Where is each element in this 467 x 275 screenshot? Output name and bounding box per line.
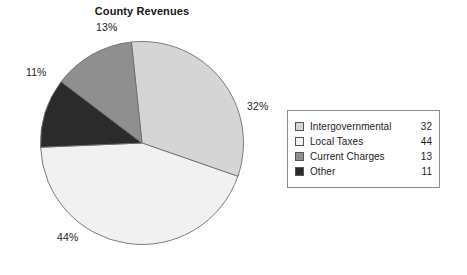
pie-graphic: [40, 41, 244, 245]
legend-value: 13: [412, 151, 432, 162]
legend-label: Intergovernmental: [310, 121, 412, 132]
legend-swatch-icon: [295, 167, 304, 176]
chart-legend: Intergovernmental32Local Taxes44Current …: [287, 110, 440, 188]
pie-percent-label-current-charges: 13%: [96, 21, 117, 33]
legend-row: Intergovernmental32: [295, 119, 432, 134]
legend-value: 11: [412, 166, 432, 177]
legend-swatch-icon: [295, 152, 304, 161]
legend-value: 32: [412, 121, 432, 132]
pie-percent-label-intergovernmental: 32%: [247, 100, 268, 112]
legend-list: Intergovernmental32Local Taxes44Current …: [295, 119, 432, 179]
legend-value: 44: [412, 136, 432, 147]
pie-percent-label-other: 11%: [26, 66, 47, 78]
pie-svg: [40, 41, 244, 245]
legend-label: Other: [310, 166, 412, 177]
chart-title: County Revenues: [0, 5, 284, 17]
pie-chart-figure: County Revenues 13% 11% 32% 44% Intergov…: [0, 0, 467, 275]
legend-row: Local Taxes44: [295, 134, 432, 149]
legend-swatch-icon: [295, 122, 304, 131]
legend-label: Local Taxes: [310, 136, 412, 147]
pie-percent-label-local-taxes: 44%: [57, 231, 78, 243]
legend-row: Other11: [295, 164, 432, 179]
pie-slice-group: [41, 42, 244, 245]
legend-label: Current Charges: [310, 151, 412, 162]
legend-swatch-icon: [295, 137, 304, 146]
legend-row: Current Charges13: [295, 149, 432, 164]
